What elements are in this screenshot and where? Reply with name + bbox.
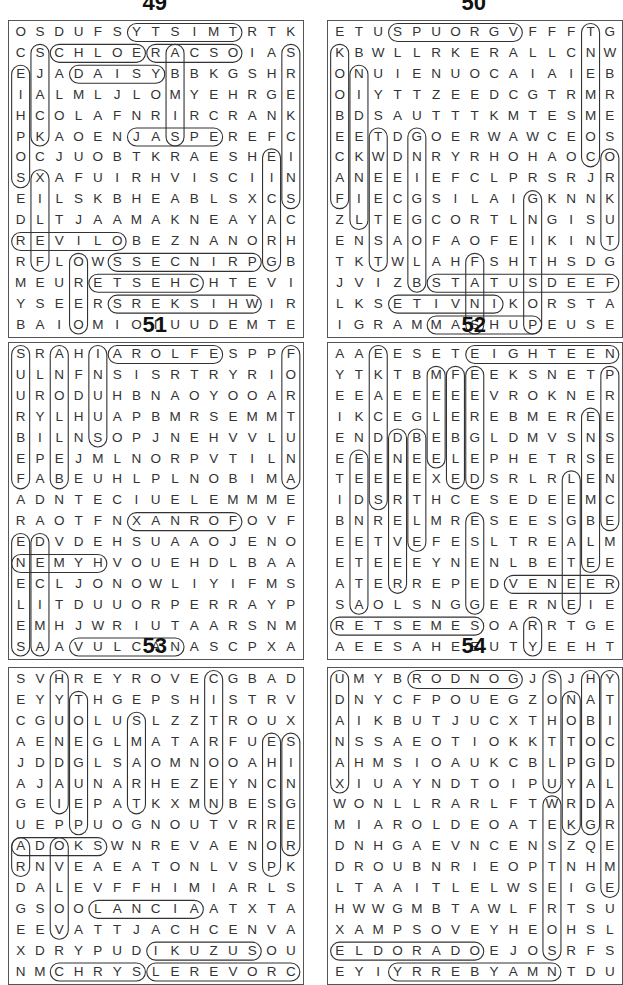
grid-letter: A <box>30 85 49 106</box>
grid-letter: S <box>243 941 262 962</box>
grid-letter: A <box>243 753 262 774</box>
grid-letter: M <box>69 85 88 106</box>
grid-letter: M <box>223 490 242 511</box>
grid-letter: T <box>465 106 484 127</box>
grid-letter: E <box>88 127 107 148</box>
grid-letter: U <box>185 815 204 836</box>
grid-letter: I <box>484 344 503 365</box>
grid-letter: H <box>127 189 146 210</box>
grid-letter: T <box>407 490 426 511</box>
puzzle-49: 49OSDUFSYTSIMTRTKCSCHLOERACSOIASEJADAISY… <box>8 0 302 336</box>
grid-letter: H <box>581 857 600 878</box>
grid-letter: F <box>427 231 446 252</box>
grid-letter: L <box>204 857 223 878</box>
grid-letter: G <box>407 127 426 148</box>
grid-letter: L <box>108 449 127 470</box>
grid-letter: L <box>262 878 281 899</box>
grid-letter: E <box>407 386 426 407</box>
grid-letter: K <box>281 106 300 127</box>
grid-letter: R <box>127 168 146 189</box>
grid-letter: C <box>581 147 600 168</box>
grid-letter: H <box>108 532 127 553</box>
grid-letter: W <box>542 794 561 815</box>
grid-letter: Y <box>388 962 407 983</box>
grid-letter: G <box>407 210 426 231</box>
grid-letter: T <box>223 449 242 470</box>
grid-letter: L <box>50 252 69 273</box>
grid-letter: A <box>108 794 127 815</box>
grid-letter: N <box>108 574 127 595</box>
grid-letter: E <box>165 490 184 511</box>
grid-letter: M <box>369 753 388 774</box>
grid-letter: E <box>243 532 262 553</box>
grid-letter: U <box>69 147 88 168</box>
grid-letter: E <box>504 595 523 616</box>
grid-letter: O <box>330 85 349 106</box>
grid-letter: C <box>204 920 223 941</box>
grid-letter: N <box>165 428 184 449</box>
grid-letter: C <box>30 147 49 168</box>
grid-letter: R <box>349 857 368 878</box>
grid-letter: L <box>388 595 407 616</box>
grid-letter: Y <box>146 64 165 85</box>
grid-letter: A <box>281 553 300 574</box>
grid-letter: E <box>349 532 368 553</box>
grid-letter: T <box>108 273 127 294</box>
grid-letter: E <box>504 836 523 857</box>
grid-letter: D <box>69 64 88 85</box>
grid-letter: P <box>127 407 146 428</box>
grid-letter: N <box>262 106 281 127</box>
grid-letter: L <box>185 490 204 511</box>
grid-letter: R <box>165 147 184 168</box>
grid-letter: W <box>88 252 107 273</box>
grid-letter: E <box>600 553 619 574</box>
grid-letter: E <box>165 774 184 795</box>
grid-letter: E <box>223 836 242 857</box>
grid-letter: R <box>562 449 581 470</box>
grid-letter: H <box>542 711 561 732</box>
grid-letter: B <box>388 711 407 732</box>
grid-letter: I <box>349 85 368 106</box>
grid-letter: O <box>427 920 446 941</box>
grid-letter: C <box>281 962 300 983</box>
grid-letter: B <box>504 407 523 428</box>
grid-letter: P <box>165 595 184 616</box>
grid-letter: E <box>581 273 600 294</box>
grid-letter: A <box>330 711 349 732</box>
grid-letter: E <box>330 231 349 252</box>
grid-letter: V <box>223 962 242 983</box>
grid-letter: N <box>281 449 300 470</box>
grid-letter: H <box>369 836 388 857</box>
grid-letter: D <box>349 490 368 511</box>
grid-letter: P <box>88 794 107 815</box>
grid-letter: M <box>504 106 523 127</box>
grid-letter: I <box>262 168 281 189</box>
grid-letter: F <box>88 22 107 43</box>
grid-letter: U <box>88 815 107 836</box>
grid-letter: T <box>223 273 242 294</box>
grid-letter: A <box>185 532 204 553</box>
grid-letter: N <box>50 732 69 753</box>
grid-letter: A <box>11 836 30 857</box>
grid-letter: I <box>330 407 349 428</box>
grid-letter: O <box>204 753 223 774</box>
grid-letter: R <box>223 252 242 273</box>
grid-letter: Y <box>108 669 127 690</box>
grid-letter: O <box>243 511 262 532</box>
grid-letter: B <box>185 64 204 85</box>
grid-letter: U <box>69 22 88 43</box>
grid-letter: Z <box>185 774 204 795</box>
grid-letter: K <box>542 189 561 210</box>
grid-letter: E <box>581 64 600 85</box>
grid-letter: C <box>204 669 223 690</box>
grid-letter: T <box>88 920 107 941</box>
grid-letter: A <box>281 899 300 920</box>
grid-letter: J <box>504 941 523 962</box>
grid-letter: B <box>223 469 242 490</box>
grid-letter: Y <box>484 920 503 941</box>
grid-letter: I <box>165 878 184 899</box>
grid-letter: O <box>108 231 127 252</box>
grid-letter: E <box>523 574 542 595</box>
grid-letter: E <box>262 147 281 168</box>
grid-letter: B <box>581 711 600 732</box>
